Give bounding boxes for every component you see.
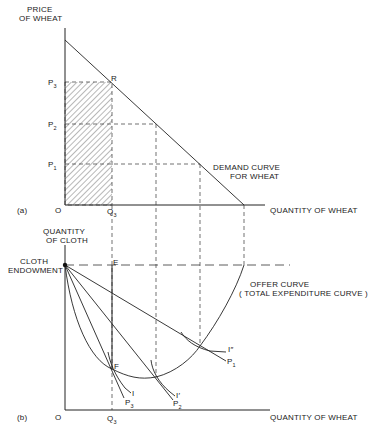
- endowment-point: [63, 263, 67, 267]
- panel-b-offer: QUANTITY OF CLOTH CLOTH ENDOWMENT E F OF…: [8, 227, 368, 425]
- origin-a: O: [55, 206, 61, 215]
- p2-line-label: P2: [173, 399, 182, 410]
- demand-label-1: DEMAND CURVE: [213, 163, 280, 172]
- cloth-axis-label-1: QUANTITY: [43, 227, 86, 236]
- indiff-i-double-prime-label: I″: [228, 345, 233, 354]
- p3-label: P3: [48, 78, 57, 89]
- panel-a-demand: PRICE OF WHEAT P3 P2 P1 R DEMAND CURVE F…: [17, 5, 358, 218]
- panel-a-tag: (a): [17, 206, 28, 215]
- point-e-label: E: [113, 258, 119, 267]
- wheat-axis-label-a: QUANTITY OF WHEAT: [270, 206, 358, 215]
- price-line-p3: [65, 265, 124, 398]
- endowment-label-2: ENDOWMENT: [8, 266, 63, 275]
- indifference-curve-i-prime: [151, 360, 175, 396]
- p1-line-label: P1: [227, 357, 236, 368]
- cloth-axis-label-2: OF CLOTH: [46, 236, 88, 245]
- expenditure-area: [65, 82, 112, 205]
- offer-curve-diagram: PRICE OF WHEAT P3 P2 P1 R DEMAND CURVE F…: [0, 0, 379, 432]
- point-f-label: F: [114, 362, 119, 371]
- point-r-label: R: [111, 74, 117, 83]
- indiff-i-label: I: [132, 389, 134, 398]
- demand-label-2: FOR WHEAT: [230, 172, 279, 181]
- price-axis-label-1: PRICE: [27, 5, 52, 14]
- offer-curve: [65, 265, 244, 378]
- offer-curve-label-2: ( TOTAL EXPENDITURE CURVE ): [239, 289, 368, 298]
- endowment-label-1: CLOTH: [20, 257, 48, 266]
- panel-b-tag: (b): [17, 413, 28, 422]
- price-axis-label-2: OF WHEAT: [19, 14, 62, 23]
- p3-line-label: P3: [125, 398, 134, 409]
- p2-label: P2: [48, 120, 57, 131]
- wheat-axis-label-b: QUANTITY OF WHEAT: [270, 413, 358, 422]
- offer-curve-label-1: OFFER CURVE: [250, 280, 309, 289]
- origin-b: O: [55, 413, 61, 422]
- q3-label-b: Q3: [107, 414, 117, 425]
- p1-label: P1: [48, 160, 57, 171]
